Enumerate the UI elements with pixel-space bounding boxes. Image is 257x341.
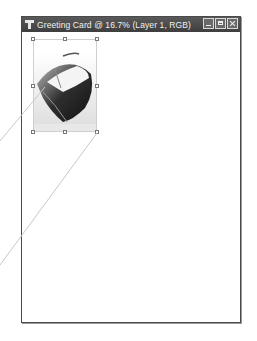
callout-line-2 <box>0 133 97 265</box>
callout-line-1 <box>0 87 45 141</box>
callout-lines <box>0 0 257 341</box>
